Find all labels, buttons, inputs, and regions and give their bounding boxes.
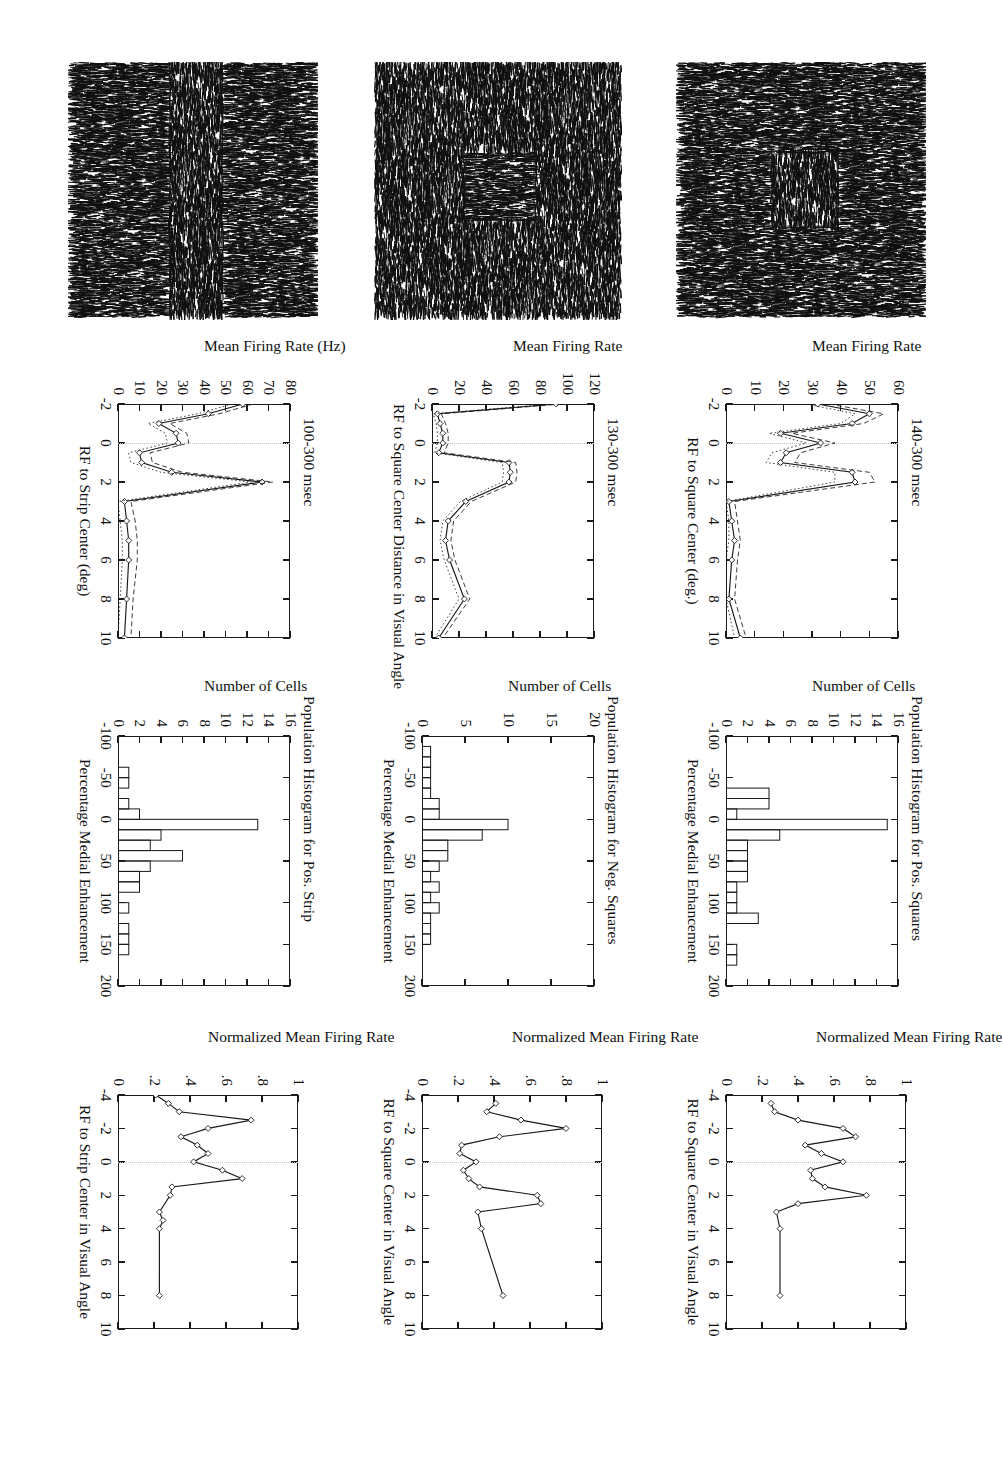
normalized-pos-strip-marker — [156, 1226, 162, 1232]
histogram-neg-squares-bar — [422, 871, 431, 881]
normalized-pos-squares-marker — [795, 1201, 801, 1207]
normalized-neg-squares-marker — [534, 1192, 540, 1198]
timecourse-pos-squares-series-upper-sem — [735, 404, 884, 638]
histogram-pos-strip-bar — [118, 851, 183, 861]
stimulus-neg-square — [372, 62, 622, 320]
timecourse-neg-squares-marker — [434, 411, 440, 417]
histogram-pos-squares-title: Population Histogram for Pos. Squares — [908, 696, 926, 941]
timecourse-pos-strip-marker — [139, 460, 145, 466]
histogram-pos-strip-bar — [118, 924, 129, 934]
normalized-pos-strip: -4-202468100.2.4.6.81RF to Strip Center … — [66, 1045, 324, 1345]
histogram-neg-squares-bar — [422, 903, 439, 913]
normalized-pos-strip-marker — [205, 1125, 211, 1131]
histogram-pos-strip-bar — [118, 934, 129, 944]
normalized-neg-squares: -4-202468100.2.4.6.81RF to Square Center… — [370, 1045, 628, 1345]
histogram-pos-squares-bar — [726, 809, 737, 819]
histogram-neg-squares-bar — [422, 840, 448, 850]
timecourse-pos-strip-marker — [121, 635, 127, 641]
normalized-pos-strip-marker — [153, 1092, 159, 1098]
timecourse-pos-squares-marker — [815, 401, 821, 407]
timecourse-neg-squares-marker — [447, 557, 453, 563]
timecourse-pos-strip-data-layer — [66, 352, 324, 652]
stimulus-pos-square — [676, 62, 926, 320]
stimulus-pos-square-canvas — [676, 62, 926, 320]
timecourse-pos-squares-marker — [783, 450, 789, 456]
normalized-pos-squares-marker — [777, 1293, 783, 1299]
histogram-pos-strip-bar — [118, 767, 129, 777]
histogram-pos-strip-data-layer — [66, 690, 324, 1000]
timecourse-pos-strip-series-mean — [124, 404, 262, 638]
timecourse-pos-squares-xaxis-label: RF to Square Center (deg.) — [684, 404, 702, 638]
histogram-neg-squares-bar — [422, 851, 448, 861]
histogram-pos-squares-data-layer — [674, 690, 932, 1000]
histogram-pos-strip-title: Population Histogram for Pos. Strip — [300, 696, 318, 922]
histogram-pos-strip-bar — [118, 871, 140, 881]
histogram-pos-squares-bar — [726, 840, 748, 850]
normalized-pos-strip-marker — [169, 1184, 175, 1190]
timecourse-pos-strip-yaxis-label: Mean Firing Rate (Hz) — [204, 337, 346, 355]
timecourse-neg-squares-data-layer — [370, 352, 628, 652]
normalized-neg-squares-marker — [475, 1209, 481, 1215]
normalized-pos-squares-marker — [840, 1159, 846, 1165]
histogram-pos-strip-bar — [118, 799, 129, 809]
histogram-pos-squares-bar — [726, 913, 758, 923]
histogram-pos-strip-bar — [118, 903, 129, 913]
timecourse-pos-squares-series-lower-sem — [726, 404, 855, 638]
normalized-pos-strip-marker — [248, 1117, 254, 1123]
timecourse-pos-strip-marker — [126, 557, 132, 563]
normalized-pos-strip-marker — [160, 1217, 166, 1223]
histogram-pos-strip-bar — [118, 830, 161, 840]
normalized-neg-squares-yaxis-label: Normalized Mean Firing Rate — [512, 1028, 698, 1046]
timecourse-pos-strip-marker — [124, 596, 130, 602]
histogram-neg-squares-bar — [422, 913, 431, 923]
stimulus-pos-strip — [68, 62, 318, 320]
histogram-neg-squares-yaxis-label: Number of Cells — [508, 677, 611, 695]
normalized-pos-squares-marker — [863, 1192, 869, 1198]
normalized-pos-squares-yaxis-label: Normalized Mean Firing Rate — [816, 1028, 1002, 1046]
normalized-pos-squares-marker — [802, 1142, 808, 1148]
normalized-pos-squares: -4-202468100.2.4.6.81RF to Square Center… — [674, 1045, 932, 1345]
normalized-neg-squares-marker — [460, 1167, 466, 1173]
timecourse-neg-squares-marker — [440, 430, 446, 436]
histogram-neg-squares-bar — [422, 746, 431, 756]
timecourse-neg-squares-title: 130-300 msec — [604, 418, 622, 507]
timecourse-neg-squares-marker — [436, 635, 442, 641]
normalized-pos-squares-data-layer — [674, 1045, 932, 1345]
histogram-pos-strip: -100-500501001502000246810121416Populati… — [66, 690, 324, 1000]
normalized-neg-squares-data-layer — [370, 1045, 628, 1345]
histogram-pos-squares: -100-500501001502000246810121416Populati… — [674, 690, 932, 1000]
histogram-pos-squares-bar — [726, 903, 737, 913]
histogram-neg-squares-bar — [422, 861, 439, 871]
histogram-neg-squares-bar — [422, 892, 431, 902]
timecourse-pos-squares-marker — [737, 635, 743, 641]
normalized-neg-squares-marker — [496, 1134, 502, 1140]
normalized-neg-squares-marker — [478, 1226, 484, 1232]
normalized-pos-strip-marker — [219, 1167, 225, 1173]
histogram-pos-strip-bar — [118, 840, 150, 850]
timecourse-pos-squares-title: 140-300 msec — [908, 418, 926, 507]
histogram-neg-squares-bar — [422, 809, 439, 819]
normalized-neg-squares-marker — [518, 1117, 524, 1123]
timecourse-neg-squares: -20246810020406080100120130-300 msecRF t… — [370, 352, 628, 652]
timecourse-neg-squares-marker — [507, 469, 513, 475]
timecourse-pos-strip-series-upper-sem — [131, 404, 273, 638]
histogram-neg-squares: -100-5005010015020005101520Population Hi… — [370, 690, 628, 1000]
normalized-pos-strip-data-layer — [66, 1045, 324, 1345]
timecourse-neg-squares-series-mean — [437, 404, 556, 638]
histogram-neg-squares-bar — [422, 934, 431, 944]
stimulus-pos-strip-canvas — [68, 62, 318, 320]
normalized-pos-strip-marker — [178, 1134, 184, 1140]
histogram-neg-squares-data-layer — [370, 690, 628, 1000]
timecourse-neg-squares-xaxis-label: RF to Square Center Distance in Visual A… — [390, 404, 408, 638]
normalized-pos-squares-marker — [818, 1151, 824, 1157]
histogram-neg-squares-bar — [422, 778, 431, 788]
timecourse-pos-strip-title: 100-300 msec — [300, 418, 318, 507]
normalized-neg-squares-xaxis-label: RF to Square Center in Visual Angle — [380, 1095, 398, 1329]
histogram-pos-squares-bar — [726, 955, 737, 965]
histogram-pos-squares-bar — [726, 788, 769, 798]
histogram-pos-squares-bar — [726, 882, 737, 892]
histogram-neg-squares-bar — [422, 819, 508, 829]
normalized-pos-strip-marker — [167, 1192, 173, 1198]
